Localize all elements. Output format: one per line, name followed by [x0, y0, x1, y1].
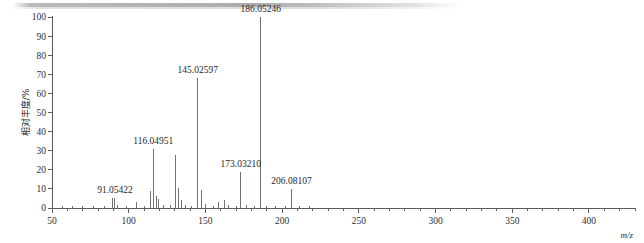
- y-tick-label: 100: [32, 12, 47, 22]
- y-tick-label: 50: [37, 108, 47, 118]
- x-tick-label: 250: [352, 216, 367, 226]
- y-tick-label: 10: [37, 184, 47, 194]
- peak-label: 186.05246: [241, 4, 282, 14]
- spectrum-plot: 0102030405060708090100 50100150200250300…: [0, 0, 644, 243]
- y-tick-label: 70: [37, 70, 47, 80]
- y-axis: 0102030405060708090100: [32, 12, 52, 213]
- peak-label: 206.08107: [271, 176, 312, 186]
- y-tick-label: 20: [37, 165, 47, 175]
- x-tick-label: 200: [275, 216, 290, 226]
- peak-label: 173.03210: [221, 159, 262, 169]
- y-axis-title: 相对丰度/%: [20, 88, 31, 136]
- x-tick-label: 150: [198, 216, 213, 226]
- y-tick-label: 60: [37, 89, 47, 99]
- x-axis-title: m/z: [620, 230, 633, 240]
- peak-label: 145.02597: [178, 65, 219, 75]
- y-tick-label: 90: [37, 32, 47, 42]
- y-tick-label: 0: [41, 203, 46, 213]
- mass-spectrum-chart: 0102030405060708090100 50100150200250300…: [0, 0, 644, 243]
- peak-label: 116.04951: [133, 136, 173, 146]
- x-axis: 50100150200250300350400: [47, 208, 635, 226]
- x-tick-label: 100: [122, 216, 137, 226]
- y-tick-label: 30: [37, 146, 47, 156]
- peak-label: 91.05422: [97, 185, 133, 195]
- peak-labels: 91.05422116.04951145.02597173.03210186.0…: [97, 4, 312, 195]
- x-tick-label: 350: [505, 216, 520, 226]
- x-tick-label: 50: [47, 216, 57, 226]
- y-tick-label: 40: [37, 127, 47, 137]
- y-tick-label: 80: [37, 51, 47, 61]
- axis-titles: m/z相对丰度/%: [20, 88, 633, 240]
- x-tick-label: 400: [582, 216, 597, 226]
- x-tick-label: 300: [428, 216, 443, 226]
